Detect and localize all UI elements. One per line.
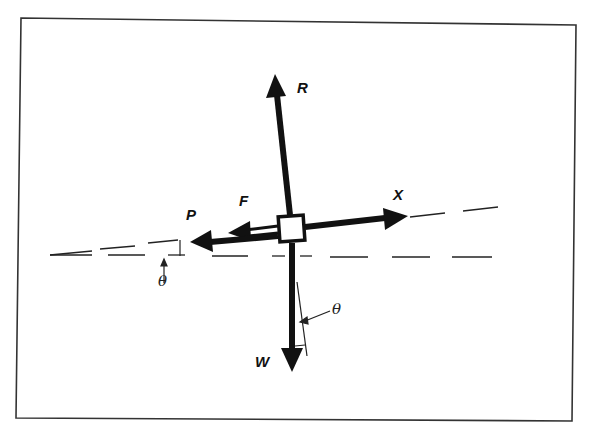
incline-reference-line <box>50 207 498 255</box>
body-square <box>278 215 305 242</box>
horizontal-reference-line <box>50 255 492 257</box>
force-r-arrow <box>266 74 290 215</box>
incline-angle-label: θ <box>158 272 167 290</box>
force-x-label: X <box>392 186 404 203</box>
weight-angle-marker <box>295 282 330 356</box>
force-diagram: θ R X F P W θ <box>0 0 590 436</box>
force-r-label: R <box>297 79 308 96</box>
weight-angle-label: θ <box>332 300 341 318</box>
force-w-label: W <box>255 353 271 370</box>
force-p-label: P <box>186 206 197 223</box>
force-w-arrow <box>281 243 303 372</box>
force-x-arrow <box>305 208 408 230</box>
force-f-label: F <box>239 192 249 209</box>
